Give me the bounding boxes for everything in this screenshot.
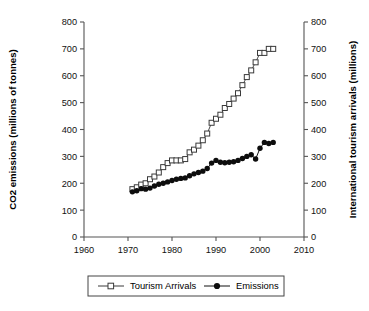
data-point-tourism-arrivals <box>227 101 232 106</box>
x-axis-tick-label: 1990 <box>206 245 226 255</box>
data-point-emissions <box>253 156 258 161</box>
legend-label-emissions: Emissions <box>236 280 279 291</box>
right-axis-tick-label: 300 <box>311 152 326 162</box>
x-axis-tick-label: 1970 <box>118 245 138 255</box>
left-axis-tick-label: 300 <box>62 152 77 162</box>
data-point-emissions <box>249 152 254 157</box>
legend-marker-emissions <box>214 283 220 289</box>
left-axis-tick-label: 100 <box>62 206 77 216</box>
right-axis-tick-label: 400 <box>311 125 326 135</box>
data-point-tourism-arrivals <box>205 131 210 136</box>
right-axis-title: International tourism arrivals (millions… <box>347 41 358 219</box>
left-axis-tick-label: 700 <box>62 44 77 54</box>
data-point-tourism-arrivals <box>183 157 188 162</box>
right-axis-tick-label: 200 <box>311 179 326 189</box>
left-axis-tick-label: 600 <box>62 71 77 81</box>
data-point-tourism-arrivals <box>240 83 245 88</box>
x-axis-tick-label: 1960 <box>74 245 94 255</box>
legend-label-tourism-arrivals: Tourism Arrivals <box>130 280 196 291</box>
dual-axis-line-chart: 0100200300400500600700800010020030040050… <box>0 0 369 311</box>
left-axis-tick-label: 500 <box>62 98 77 108</box>
data-point-tourism-arrivals <box>244 75 249 80</box>
left-axis-tick-label: 0 <box>72 232 77 242</box>
right-axis-tick-label: 700 <box>311 44 326 54</box>
right-axis-tick-label: 800 <box>311 17 326 27</box>
data-point-tourism-arrivals <box>253 60 258 65</box>
left-axis-tick-label: 200 <box>62 179 77 189</box>
data-point-tourism-arrivals <box>249 68 254 73</box>
x-axis-tick-label: 2000 <box>250 245 270 255</box>
left-axis-tick-label: 400 <box>62 125 77 135</box>
data-point-tourism-arrivals <box>218 112 223 117</box>
legend-marker-tourism-arrivals <box>108 283 114 289</box>
chart-container: 0100200300400500600700800010020030040050… <box>0 0 369 311</box>
right-axis-tick-label: 600 <box>311 71 326 81</box>
data-point-tourism-arrivals <box>156 170 161 175</box>
data-point-tourism-arrivals <box>236 91 241 96</box>
data-point-emissions <box>271 140 276 145</box>
x-axis-tick-label: 2010 <box>294 245 314 255</box>
data-point-tourism-arrivals <box>231 96 236 101</box>
data-point-tourism-arrivals <box>271 46 276 51</box>
data-point-emissions <box>257 146 262 151</box>
data-point-tourism-arrivals <box>200 138 205 143</box>
data-point-tourism-arrivals <box>196 143 201 148</box>
right-axis-tick-label: 500 <box>311 98 326 108</box>
data-point-emissions <box>205 166 210 171</box>
right-axis-tick-label: 100 <box>311 206 326 216</box>
x-axis-tick-label: 1980 <box>162 245 182 255</box>
left-axis-title: CO2 emissions (millions of tonnes) <box>7 49 18 209</box>
right-axis-tick-label: 0 <box>311 232 316 242</box>
left-axis-tick-label: 800 <box>62 17 77 27</box>
